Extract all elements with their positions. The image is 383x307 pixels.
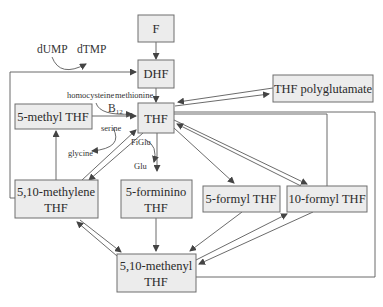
label-glu: Glu xyxy=(134,161,148,171)
svg-text:F: F xyxy=(153,22,160,36)
svg-text:5-forminino: 5-forminino xyxy=(126,185,186,199)
label-serine: serine xyxy=(101,123,122,133)
label-dump: dUMP xyxy=(37,43,68,55)
edge-formyl10-thf xyxy=(177,124,301,186)
node-folate: F xyxy=(138,15,174,42)
edge-dump-dtmp-curve xyxy=(52,57,86,70)
svg-text:THF: THF xyxy=(144,201,168,215)
label-methionine: methionine xyxy=(115,90,153,100)
svg-text:5-methyl THF: 5-methyl THF xyxy=(17,110,89,124)
svg-text:THF: THF xyxy=(44,201,68,215)
node-5-formyl-thf: 5-formyl THF xyxy=(203,186,280,212)
edge-formyl5-methenyl xyxy=(190,212,242,251)
svg-text:THF polyglutamate: THF polyglutamate xyxy=(274,82,373,96)
node-5-10-methenyl-thf: 5,10-methenyl THF xyxy=(117,254,196,292)
edge-methenyl-methylene xyxy=(77,222,117,256)
node-5-methyl-thf: 5-methyl THF xyxy=(15,104,92,129)
edge-methylene-methenyl xyxy=(80,220,121,252)
svg-text:THF: THF xyxy=(144,275,168,289)
node-thf-polyglutamate: THF polyglutamate xyxy=(273,75,373,102)
node-10-formyl-thf: 10-formyl THF xyxy=(287,186,367,212)
svg-text:5,10-methylene: 5,10-methylene xyxy=(17,185,96,199)
edge-thf-loop-inner xyxy=(174,114,327,186)
svg-text:5,10-methenyl: 5,10-methenyl xyxy=(120,259,193,273)
svg-text:10-formyl THF: 10-formyl THF xyxy=(288,192,365,206)
edge-methenyl-formyl10 xyxy=(196,214,287,260)
node-5-10-methylene-thf: 5,10-methylene THF xyxy=(15,180,98,218)
node-dhf: DHF xyxy=(138,60,174,88)
label-dtmp: dTMP xyxy=(77,43,106,55)
node-5-forminino-thf: 5-forminino THF xyxy=(121,180,192,218)
svg-text:5-formyl THF: 5-formyl THF xyxy=(206,192,277,206)
edge-formyl10-methenyl xyxy=(199,212,313,264)
edge-thf-formyl5 xyxy=(174,128,234,183)
edge-thf-formyl10 xyxy=(174,120,307,184)
label-glycine: glycine xyxy=(68,148,93,158)
label-b12: B12 xyxy=(108,102,123,116)
svg-text:DHF: DHF xyxy=(143,67,168,81)
label-homocysteine: homocysteine xyxy=(67,90,114,100)
svg-text:THF: THF xyxy=(144,112,168,126)
label-figlu: FiGlu xyxy=(131,137,152,147)
node-thf: THF xyxy=(138,103,174,133)
folate-pathway-diagram: dUMP dTMP homocysteine methionine B12 se… xyxy=(0,0,383,307)
